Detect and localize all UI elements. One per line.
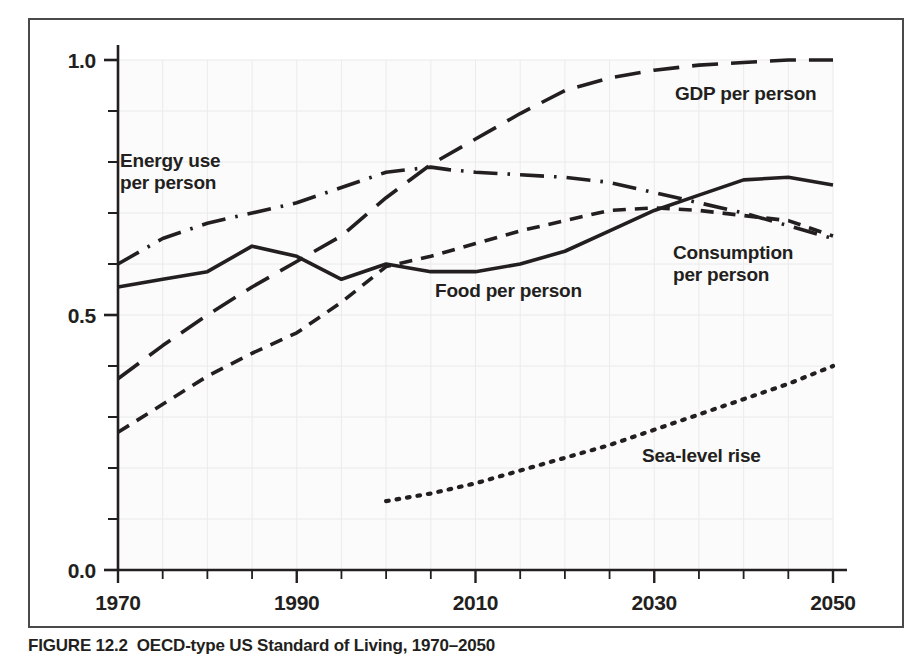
caption-number: FIGURE 12.2 (28, 636, 128, 655)
x-axis-tick-label: 1990 (274, 591, 320, 614)
series-label-consumption: Consumption per person (673, 242, 793, 287)
chart-frame: 0.00.51.019701990201020302050 Energy use… (28, 18, 904, 628)
figure-caption: FIGURE 12.2OECD-type US Standard of Livi… (28, 636, 904, 656)
x-axis-tick-label: 2050 (810, 591, 856, 614)
y-axis-tick-label: 0.0 (68, 559, 96, 582)
series-label-gdp: GDP per person (675, 83, 817, 105)
series-label-food: Food per person (435, 280, 582, 302)
series-label-energy: Energy use per person (120, 150, 220, 195)
x-axis-tick-label: 1970 (95, 591, 141, 614)
series-label-sea-level-rise: Sea-level rise (642, 445, 761, 467)
y-axis-tick-label: 0.5 (68, 304, 97, 327)
line-chart: 0.00.51.019701990201020302050 (30, 20, 902, 626)
x-axis-tick-label: 2030 (631, 591, 677, 614)
x-axis-tick-label: 2010 (453, 591, 499, 614)
caption-text: OECD-type US Standard of Living, 1970–20… (137, 636, 495, 655)
figure-container: 0.00.51.019701990201020302050 Energy use… (0, 0, 923, 658)
y-axis-tick-label: 1.0 (68, 49, 96, 72)
